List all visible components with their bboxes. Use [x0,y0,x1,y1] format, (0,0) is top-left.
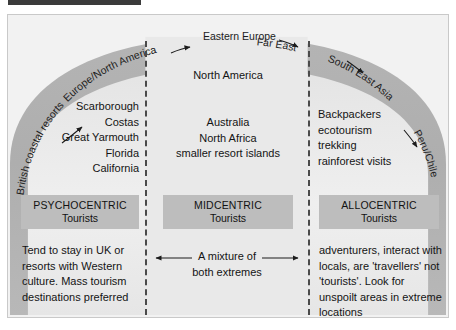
left-destination-list: Scarborough Costas Great Yarmouth Florid… [22,99,139,177]
allocentric-sublabel: Tourists [319,212,439,225]
middle-heading: North America [152,69,304,81]
psychographic-model-figure: British coastal resorts Europe/North Ame… [7,14,449,318]
midcentric-sublabel: Tourists [163,212,293,225]
midcentric-type-box: MIDCENTRIC Tourists [163,195,293,229]
psychocentric-description: Tend to stay in UK or resorts with Weste… [22,243,142,305]
psychocentric-type-box: PSYCHOCENTRIC Tourists [21,195,139,229]
divider-right [308,41,310,315]
divider-left [145,41,147,315]
psychocentric-label: PSYCHOCENTRIC [21,199,139,212]
diagram-canvas: British coastal resorts Europe/North Ame… [0,0,456,330]
midcentric-label: MIDCENTRIC [163,199,293,212]
cropped-header-bar [8,0,141,5]
mixture-annotation: A mixture of both extremes [148,249,306,289]
right-destination-list: Backpackers ecotourism trekking rainfore… [318,107,444,169]
middle-destination-list: Australia North Africa smaller resort is… [152,115,304,162]
psychocentric-sublabel: Tourists [21,212,139,225]
allocentric-label: ALLOCENTRIC [319,199,439,212]
allocentric-description: adventurers, interact with locals, are '… [319,243,445,318]
mixture-description: A mixture of both extremes [148,249,306,280]
allocentric-type-box: ALLOCENTRIC Tourists [319,195,439,229]
